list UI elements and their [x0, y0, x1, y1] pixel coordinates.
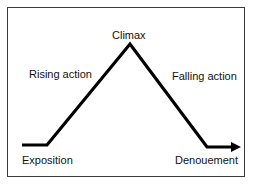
- label-rising-action: Rising action: [29, 69, 92, 80]
- arrowhead-icon: [231, 142, 241, 152]
- label-denouement: Denouement: [175, 155, 238, 166]
- label-falling-action: Falling action: [172, 71, 237, 82]
- label-exposition: Exposition: [22, 155, 73, 166]
- label-climax: Climax: [112, 30, 146, 41]
- story-arc-line: [22, 44, 233, 147]
